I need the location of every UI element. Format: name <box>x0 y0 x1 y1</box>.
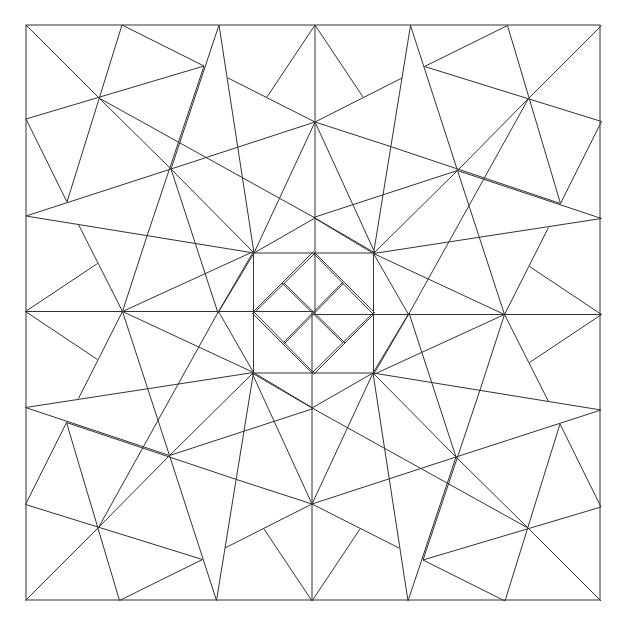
pattern-line <box>123 252 254 312</box>
pattern-line <box>425 26 508 67</box>
pattern-line <box>505 228 549 315</box>
pattern-line <box>225 504 312 548</box>
pattern-line <box>254 373 314 409</box>
pattern-line <box>67 423 237 480</box>
pattern-line <box>120 560 203 601</box>
pattern-line <box>26 423 67 505</box>
pattern-line <box>373 373 456 457</box>
pattern-line <box>560 424 601 507</box>
quilt-pattern-diagram <box>0 0 627 622</box>
pattern-line <box>374 26 411 254</box>
pattern-line <box>26 119 67 202</box>
pattern-line <box>228 78 315 122</box>
pattern-line <box>508 26 561 204</box>
pattern-line <box>458 99 529 171</box>
pattern-line <box>264 529 312 601</box>
pattern-line <box>67 423 120 601</box>
pattern-line <box>123 312 170 456</box>
pattern-line <box>26 264 98 312</box>
quadrant-3 <box>26 225 344 601</box>
pattern-line <box>456 457 528 528</box>
pattern-line <box>374 219 602 254</box>
pattern-line <box>530 315 602 363</box>
pattern-line <box>219 25 254 253</box>
pattern-line <box>312 457 456 504</box>
quadrant-1 <box>284 26 602 402</box>
pattern-line <box>408 457 456 601</box>
pattern-line <box>26 373 254 408</box>
quadrant-2 <box>225 283 601 601</box>
pattern-line <box>373 373 408 601</box>
pattern-line <box>99 98 315 218</box>
pattern-line <box>411 26 458 171</box>
pattern-line <box>99 98 171 169</box>
pattern-line <box>409 99 529 315</box>
pattern-line <box>171 25 219 169</box>
pattern-line <box>425 67 602 122</box>
pattern-line <box>314 218 374 254</box>
pattern-line <box>170 456 217 601</box>
pattern-line <box>123 312 254 373</box>
pattern-line <box>312 373 373 504</box>
pattern-line <box>374 254 409 315</box>
pattern-line <box>528 528 601 601</box>
pattern-line <box>252 373 312 504</box>
pattern-line <box>374 315 505 375</box>
pattern-line <box>99 312 219 528</box>
pattern-line <box>312 529 360 601</box>
pattern-line <box>373 313 409 373</box>
pattern-line <box>458 171 505 315</box>
pattern-line <box>561 122 602 204</box>
pattern-line <box>79 225 123 312</box>
pattern-line <box>391 147 561 204</box>
pattern-line <box>67 25 122 202</box>
pattern-line <box>26 505 203 560</box>
pattern-line <box>458 171 602 219</box>
pattern-line <box>147 66 204 236</box>
pattern-line <box>26 169 171 216</box>
pattern-line <box>374 171 458 254</box>
pattern-line <box>312 373 373 408</box>
pattern-line <box>26 408 170 456</box>
pattern-line <box>217 373 254 601</box>
pattern-line <box>99 456 170 528</box>
pattern-line <box>26 66 204 119</box>
pattern-line <box>373 373 601 410</box>
pattern-line <box>170 373 254 456</box>
pattern-line <box>312 408 528 528</box>
pattern-line <box>505 424 560 601</box>
pattern-line <box>26 312 98 360</box>
pattern-line <box>530 267 602 315</box>
pattern-line <box>254 218 315 253</box>
pattern-line <box>423 390 480 560</box>
pattern-line <box>254 122 315 253</box>
pattern-line <box>267 25 315 97</box>
pattern-line <box>423 560 505 601</box>
pattern-line <box>26 216 254 253</box>
pattern-line <box>529 26 602 99</box>
quadrant-0 <box>26 25 402 343</box>
pattern-line <box>456 410 601 457</box>
pattern-line <box>26 25 99 98</box>
pattern-line <box>505 315 549 402</box>
pattern-line <box>312 504 399 548</box>
pattern-line <box>315 78 402 122</box>
pattern-line <box>122 25 204 66</box>
pattern-line <box>315 25 363 97</box>
pattern-line <box>219 312 254 373</box>
pattern-line <box>423 507 601 560</box>
pattern-line <box>315 122 375 253</box>
pattern-line <box>219 252 254 312</box>
pattern-line <box>26 528 99 601</box>
pattern-line <box>171 169 254 253</box>
pattern-line <box>374 254 505 315</box>
pattern-line <box>79 312 123 399</box>
pattern-line <box>171 122 315 169</box>
